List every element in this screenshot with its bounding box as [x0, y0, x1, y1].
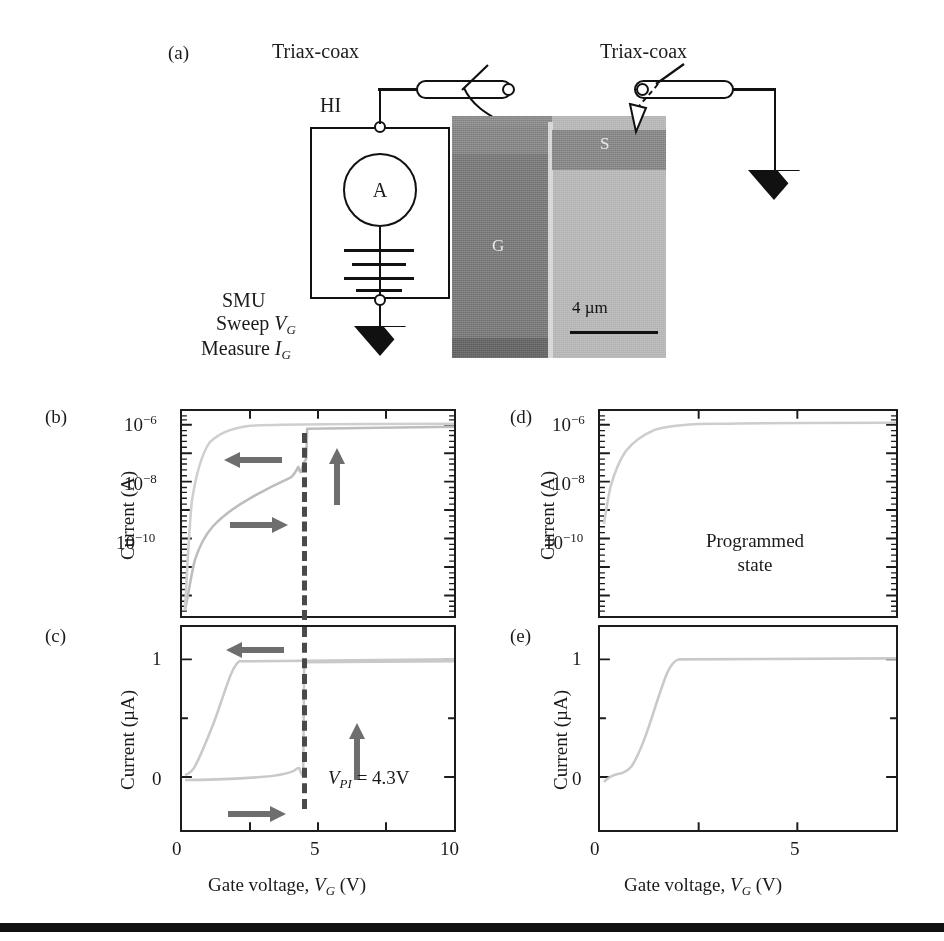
vpi-value: = 4.3V [357, 767, 410, 788]
xlabel-prefix: Gate voltage, [208, 874, 309, 895]
ammeter-label: A [373, 179, 387, 202]
panel-d-curves [600, 411, 896, 616]
panel-e-ylabel: Current (µA) [550, 690, 572, 790]
measure-subscript: G [282, 347, 291, 362]
ytick-mantissa: 10 [124, 414, 143, 435]
ground-stem-left [379, 304, 382, 326]
panel-e-xlabel: Gate voltage, VG (V) [624, 874, 782, 899]
panel-e-ytick-1: 1 [572, 648, 582, 670]
triax-coax-label-left: Triax-coax [272, 40, 359, 63]
measure-text: Measure [201, 337, 270, 359]
sem-gate-label: G [492, 236, 504, 256]
panel-e-curves [600, 627, 896, 830]
ytick-mantissa: 10 [116, 532, 135, 553]
vpi-subscript: PI [340, 776, 352, 791]
vpi-variable: V [328, 767, 340, 788]
panel-b-plot-area [180, 409, 456, 618]
scale-bar-label: 4 µm [572, 298, 608, 318]
battery-gap-2 [379, 263, 382, 277]
battery-gap-1 [379, 249, 382, 263]
sem-gate-shadow [452, 338, 548, 358]
panel-c-vpi-dashed-line [302, 627, 307, 809]
panel-d-ytick-1e-8: 10−8 [552, 471, 585, 495]
ytick-exponent: −10 [563, 530, 583, 545]
sweep-text: Sweep [216, 312, 269, 334]
panel-c-plot-area: VPI = 4.3V [180, 625, 456, 832]
panel-c-ytick-1: 1 [152, 648, 162, 670]
xlabel-variable: V [314, 874, 326, 895]
bottom-rule [0, 923, 944, 932]
panel-d-ytick-1e-10: 10−10 [544, 530, 583, 554]
panel-d-tag: (d) [510, 406, 532, 428]
panel-c-ylabel: Current (µA) [117, 690, 139, 790]
panel-e-xtick-0: 0 [590, 838, 600, 860]
ytick-mantissa: 10 [552, 414, 571, 435]
ammeter-to-battery-wire [379, 227, 382, 249]
sweep-line: Sweep VG [216, 312, 296, 338]
scale-bar [570, 331, 658, 334]
panel-c-arrow-left [224, 641, 284, 659]
panel-c-xlabel: Gate voltage, VG (V) [208, 874, 366, 899]
ytick-exponent: −6 [143, 412, 157, 427]
sem-gate-top-facet [452, 126, 548, 154]
panel-c-tag: (c) [45, 625, 66, 647]
ytick-mantissa: 10 [124, 473, 143, 494]
panel-a-schematic: (a) Triax-coax Triax-coax HI A SMU Swe [0, 0, 944, 390]
panel-c-xtick-5: 5 [310, 838, 320, 860]
panel-e-ytick-0: 0 [572, 768, 582, 790]
measure-line: Measure IG [201, 337, 291, 363]
panel-c-xtick-0: 0 [172, 838, 182, 860]
panel-b-ytick-1e-10: 10−10 [116, 530, 155, 554]
xlabel-variable: V [730, 874, 742, 895]
ground-symbol-right [748, 170, 800, 200]
programmed-state-line1: Programmed [670, 529, 840, 553]
programmed-state-line2: state [670, 553, 840, 577]
panel-e-xtick-5: 5 [790, 838, 800, 860]
panel-a-tag: (a) [168, 42, 189, 64]
panel-e-plot-area [598, 625, 898, 832]
ground-symbol-left [354, 326, 406, 356]
panel-b-arrow-right [230, 516, 290, 534]
panel-b-curves [182, 411, 454, 616]
sweep-subscript: G [287, 322, 296, 337]
xlabel-subscript: G [326, 883, 335, 898]
ytick-exponent: −6 [571, 412, 585, 427]
figure-root: (a) Triax-coax Triax-coax HI A SMU Swe [0, 0, 944, 941]
xlabel-prefix: Gate voltage, [624, 874, 725, 895]
ytick-exponent: −10 [135, 530, 155, 545]
panel-b-tag: (b) [45, 406, 67, 428]
panel-d-programmed-state-note: Programmed state [670, 529, 840, 577]
xlabel-unit: (V) [340, 874, 366, 895]
panel-b-arrow-up [328, 447, 346, 505]
panel-d-ytick-1e-6: 10−6 [552, 412, 585, 436]
hi-to-coax-wire [378, 88, 418, 91]
smu-label: SMU [222, 289, 265, 312]
panel-e-tag: (e) [510, 625, 531, 647]
panel-b-ytick-1e-8: 10−8 [124, 471, 157, 495]
coax-to-ground-wire-h [732, 88, 776, 91]
panel-c-arrow-right [228, 805, 288, 823]
probe-needle-right [606, 58, 716, 158]
panel-c-xtick-10: 10 [440, 838, 459, 860]
ammeter-symbol: A [343, 153, 417, 227]
hi-label: HI [320, 94, 341, 117]
ytick-mantissa: 10 [552, 473, 571, 494]
battery-gap-3 [379, 277, 382, 289]
xlabel-unit: (V) [756, 874, 782, 895]
xlabel-subscript: G [742, 883, 751, 898]
panel-b-arrow-left [222, 451, 282, 469]
sweep-variable: V [274, 312, 286, 334]
panel-c-vpi-annotation: VPI = 4.3V [328, 767, 410, 792]
hi-riser-wire [379, 88, 382, 124]
ytick-mantissa: 10 [544, 532, 563, 553]
panel-b-vpi-dashed-line [302, 433, 307, 620]
panel-d-plot-area: Programmed state [598, 409, 898, 618]
ytick-exponent: −8 [143, 471, 157, 486]
panel-c-curves [182, 627, 454, 830]
ytick-exponent: −8 [571, 471, 585, 486]
panel-b-ytick-1e-6: 10−6 [124, 412, 157, 436]
panel-c-ytick-0: 0 [152, 768, 162, 790]
measure-variable: I [275, 337, 282, 359]
coax-to-ground-wire-v [774, 88, 777, 170]
